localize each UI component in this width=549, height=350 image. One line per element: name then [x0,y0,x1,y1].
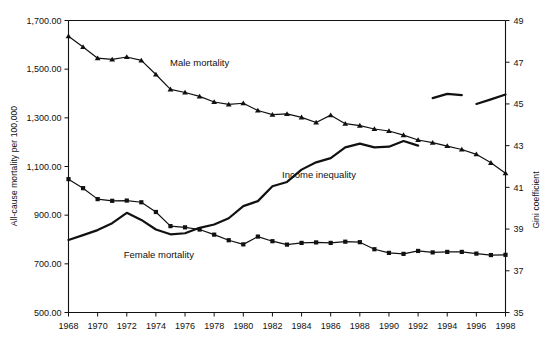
data-point [124,54,130,59]
data-point [96,197,100,201]
data-point [285,243,289,247]
x-axis-tick-labels: 1968197019721974197619781980198219841986… [58,321,515,331]
y2-tick-label: 45 [514,99,524,109]
data-point [66,34,72,39]
y-tick-label: 900.00 [34,210,62,220]
data-point [212,233,216,237]
data-point [416,249,420,253]
series-1 [66,177,507,257]
x-tick-label: 1988 [350,321,370,331]
series-line [69,36,506,173]
data-point [125,198,129,202]
y-tick-label: 700.00 [34,259,62,269]
data-point [343,240,347,244]
y-tick-label: 1,300.00 [26,113,61,123]
data-point [503,253,507,257]
data-point [372,247,376,251]
data-point [314,240,318,244]
data-point [328,112,334,117]
y2-tick-label: 41 [514,183,524,193]
y-axis-left-tick-labels: 500.00700.00900.001,100.001,300.001,500.… [26,16,61,318]
x-tick-label: 1974 [146,321,166,331]
x-tick-label: 1998 [495,321,515,331]
series-0 [66,34,509,176]
data-point [474,252,478,256]
data-point [489,253,493,257]
x-tick-label: 1992 [408,321,428,331]
y-tick-label: 1,500.00 [26,64,61,74]
x-tick-label: 1976 [175,321,195,331]
data-point [299,241,303,245]
mortality-gini-line-chart: 1968197019721974197619781980198219841986… [0,0,549,350]
data-point [227,238,231,242]
data-point [81,186,85,190]
plot-frame [69,21,506,313]
x-tick-label: 1990 [379,321,399,331]
y2-tick-label: 49 [514,16,524,26]
y-axis-left-ticks [65,21,69,313]
series-line [433,94,462,98]
data-point [358,240,362,244]
data-point [154,210,158,214]
data-point [460,250,464,254]
data-point [110,199,114,203]
x-tick-label: 1996 [466,321,486,331]
x-tick-label: 1978 [204,321,224,331]
x-axis-ticks [69,313,506,317]
series-label-female-mortality: Female mortality [124,249,194,260]
data-point [387,251,391,255]
data-point [183,225,187,229]
x-tick-label: 1970 [88,321,108,331]
x-tick-label: 1980 [233,321,253,331]
series-label-male-mortality: Male mortality [170,57,229,68]
x-tick-label: 1982 [262,321,282,331]
data-point [329,241,333,245]
data-point [488,160,494,165]
series-inline-labels: Male mortalityFemale mortalityIncome ine… [124,57,357,259]
data-point [401,252,405,256]
y2-tick-label: 43 [514,141,524,151]
y-axis-left-title: All-cause mortality per 100,000 [9,106,19,226]
data-point [168,224,172,228]
y-tick-label: 1,700.00 [26,16,61,26]
data-point [241,242,245,246]
y-tick-label: 500.00 [34,308,62,318]
chart-figure: 1968197019721974197619781980198219841986… [0,0,549,350]
x-tick-label: 1972 [117,321,137,331]
series-line [476,95,505,104]
y2-tick-label: 47 [514,58,524,68]
y2-tick-label: 37 [514,266,524,276]
y2-tick-label: 39 [514,224,524,234]
x-tick-label: 1968 [58,321,78,331]
series-line [69,141,419,240]
data-point [66,177,70,181]
data-point [256,234,260,238]
data-point [445,250,449,254]
series-layer [66,34,509,258]
series-label-income-inequality: Income inequality [282,169,356,180]
y2-tick-label: 35 [514,308,524,318]
y-axis-right-ticks [506,21,510,313]
x-tick-label: 1994 [437,321,457,331]
data-point [139,200,143,204]
x-tick-label: 1986 [321,321,341,331]
x-tick-label: 1984 [292,321,312,331]
data-point [270,239,274,243]
data-point [342,121,348,126]
y-axis-right-tick-labels: 3537394143454749 [514,16,524,318]
y-axis-right-title: Gini coefficient [531,171,541,229]
data-point [431,250,435,254]
y-tick-label: 1,100.00 [26,162,61,172]
